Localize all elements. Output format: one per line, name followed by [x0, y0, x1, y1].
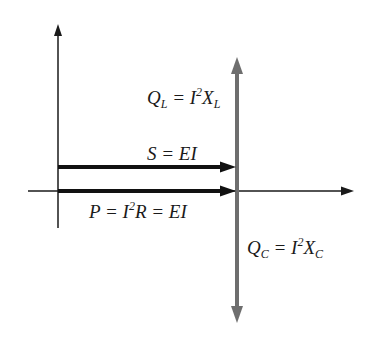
p-label: P = I2R = EI	[89, 200, 187, 221]
ql-label: QL = I2XL	[147, 86, 220, 110]
power-phasor-diagram: QL = I2XL S = EI P = I2R = EI QC = I2XC	[0, 0, 378, 342]
qc-label: QC = I2XC	[247, 236, 323, 260]
real-power-arrow	[58, 186, 236, 197]
s-label: S = EI	[147, 144, 197, 163]
diagram-graphics	[0, 0, 378, 342]
y-axis	[54, 24, 62, 228]
